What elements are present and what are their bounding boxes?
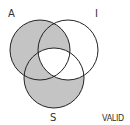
- verdict-label: VALID: [102, 115, 124, 123]
- label-a: A: [8, 9, 15, 19]
- label-i: I: [95, 9, 98, 19]
- venn-diagram: [0, 0, 130, 125]
- label-s: S: [50, 113, 56, 123]
